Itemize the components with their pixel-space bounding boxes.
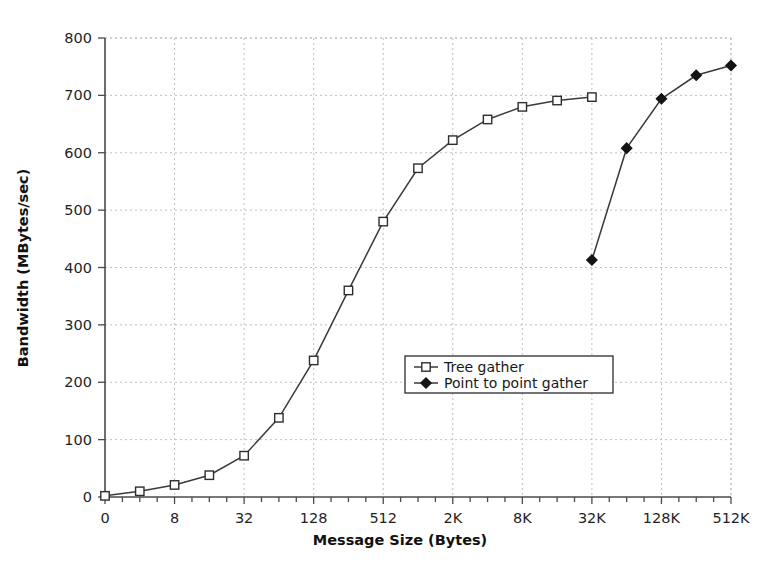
data-point-marker [483, 115, 491, 123]
data-point-marker [275, 414, 283, 422]
series-1 [101, 93, 596, 500]
y-axis-ticks: 0100200300400500600700800 [64, 30, 105, 505]
data-point-marker [588, 93, 596, 101]
data-point-marker [240, 451, 248, 459]
chart-canvas: 0100200300400500600700800 08321285122K8K… [0, 0, 765, 577]
data-point-marker [101, 492, 109, 500]
axes [105, 38, 731, 497]
x-tick-label: 8K [513, 510, 532, 526]
y-tick-label: 500 [64, 202, 92, 218]
y-tick-label: 300 [64, 317, 92, 333]
data-series [101, 60, 736, 500]
data-point-marker [621, 143, 631, 153]
x-tick-label: 2K [443, 510, 462, 526]
x-tick-label: 512K [712, 510, 750, 526]
legend-marker [422, 363, 430, 371]
data-point-marker [170, 481, 178, 489]
chart-legend: Tree gatherPoint to point gather [405, 356, 613, 393]
x-tick-label: 128 [300, 510, 328, 526]
data-point-marker [691, 70, 701, 80]
y-tick-label: 400 [64, 260, 92, 276]
x-axis-ticks: 08321285122K8K32K128K512K [100, 497, 750, 526]
data-point-marker [414, 164, 422, 172]
x-tick-label: 0 [100, 510, 109, 526]
data-point-marker [379, 217, 387, 225]
data-point-marker [518, 103, 526, 111]
y-tick-label: 600 [64, 145, 92, 161]
legend-label: Tree gather [443, 359, 524, 375]
x-tick-label: 512 [369, 510, 397, 526]
x-tick-label: 32 [235, 510, 253, 526]
data-point-marker [449, 136, 457, 144]
bandwidth-chart: 0100200300400500600700800 08321285122K8K… [0, 0, 765, 577]
x-tick-label: 8 [170, 510, 179, 526]
y-axis-title: Bandwidth (MBytes/sec) [15, 169, 31, 368]
x-axis-title: Message Size (Bytes) [313, 532, 487, 548]
data-point-marker [344, 286, 352, 294]
data-point-marker [726, 60, 736, 70]
data-point-marker [136, 487, 144, 495]
data-point-marker [553, 96, 561, 104]
data-point-marker [309, 356, 317, 364]
series-line [105, 97, 592, 496]
grid-lines [105, 38, 731, 497]
x-tick-label: 32K [578, 510, 606, 526]
x-tick-label: 128K [643, 510, 681, 526]
data-point-marker [587, 255, 597, 265]
y-tick-label: 200 [64, 374, 92, 390]
data-point-marker [205, 471, 213, 479]
y-tick-label: 100 [64, 432, 92, 448]
y-tick-label: 0 [83, 489, 92, 505]
y-tick-label: 700 [64, 87, 92, 103]
legend-label: Point to point gather [444, 375, 588, 391]
y-tick-label: 800 [64, 30, 92, 46]
